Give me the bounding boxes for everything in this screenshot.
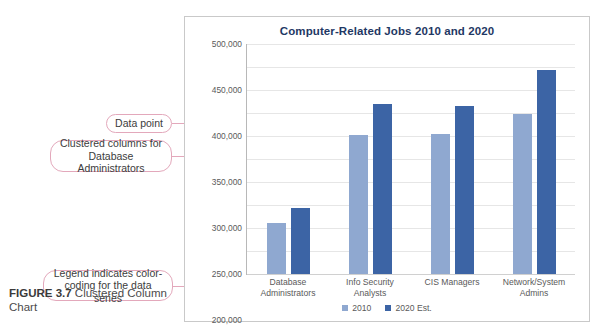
callout-clustered-columns: Clustered columns for Database Administr… [50, 140, 172, 172]
callout-data-point-text: Data point [115, 117, 163, 130]
y-axis-tick-label: 350,000 [212, 177, 242, 187]
figure-caption: FIGURE 3.7 Clustered Column Chart [9, 286, 181, 314]
figure-number: FIGURE 3.7 [9, 287, 72, 299]
legend-label: 2010 [352, 303, 371, 313]
y-axis-tick-label: 450,000 [212, 85, 242, 95]
bar-series-2020[interactable] [291, 208, 310, 274]
x-axis-labels: Database AdministratorsInfo Security Ana… [247, 277, 575, 299]
bar-clusters [247, 44, 575, 274]
bar-series-2010[interactable] [431, 134, 450, 274]
legend-swatch-icon [385, 305, 391, 311]
y-axis-tick-label: 200,000 [212, 315, 242, 325]
legend-swatch-icon [342, 305, 348, 311]
x-axis-category-label: Network/System Admins [493, 277, 575, 299]
x-axis-category-label: Info Security Analysts [329, 277, 411, 299]
callout-clustered-columns-text: Clustered columns for Database Administr… [59, 137, 163, 175]
x-axis-category-label: Database Administrators [247, 277, 329, 299]
x-axis-category-label: CIS Managers [411, 277, 493, 299]
y-axis-tick-label: 400,000 [212, 131, 242, 141]
bar-series-2010[interactable] [513, 114, 532, 274]
bar-cluster [329, 44, 411, 274]
x-axis-line [247, 274, 575, 275]
legend-label: 2020 Est. [395, 303, 431, 313]
y-axis-tick-label: 500,000 [212, 39, 242, 49]
y-axis-tick-label: 300,000 [212, 223, 242, 233]
bar-series-2020[interactable] [537, 70, 556, 274]
bar-cluster [493, 44, 575, 274]
bar-cluster [411, 44, 493, 274]
plot-area: 50,000100,000150,000200,000250,000300,00… [247, 44, 575, 274]
callout-data-point: Data point [106, 114, 172, 133]
y-axis-tick-label: 250,000 [212, 269, 242, 279]
bar-cluster [247, 44, 329, 274]
legend-entry[interactable]: 2020 Est. [385, 303, 431, 313]
legend-entry[interactable]: 2010 [342, 303, 371, 313]
chart-panel: Computer-Related Jobs 2010 and 2020 50,0… [184, 16, 590, 322]
bar-series-2010[interactable] [267, 223, 286, 274]
bar-series-2020[interactable] [373, 104, 392, 274]
bar-series-2010[interactable] [349, 135, 368, 274]
chart-title: Computer-Related Jobs 2010 and 2020 [185, 25, 589, 37]
chart-legend: 20102020 Est. [185, 303, 589, 313]
bar-series-2020[interactable] [455, 106, 474, 274]
